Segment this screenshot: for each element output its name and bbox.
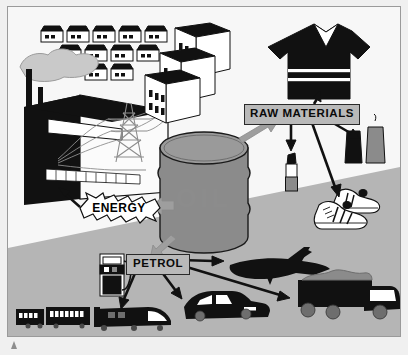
label-petrol[interactable]: PETROL <box>126 254 190 275</box>
house-icon <box>137 45 159 61</box>
diagram-illustration: OIL <box>8 7 400 336</box>
house-icon <box>41 26 63 42</box>
screenshot-canvas: OIL <box>0 0 408 355</box>
barrel-caption: OIL <box>176 183 231 213</box>
oil-barrel: OIL <box>158 132 250 253</box>
infographic-svg: OIL <box>8 7 400 336</box>
house-icon <box>145 26 167 42</box>
diagram-frame: OIL <box>7 6 401 337</box>
label-energy[interactable]: ENERGY <box>83 195 155 221</box>
lipstick-icon <box>286 153 298 191</box>
house-icon <box>111 45 133 61</box>
house-icon <box>93 26 115 42</box>
house-icon <box>119 26 141 42</box>
corner-marker-triangle <box>11 341 17 349</box>
label-raw-materials[interactable]: RAW MATERIALS <box>244 104 360 125</box>
office-building <box>145 70 200 123</box>
house-icon <box>67 26 89 42</box>
house-icon <box>111 64 133 80</box>
